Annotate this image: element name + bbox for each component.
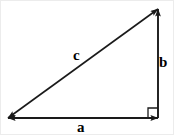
right-triangle-diagram: c b a: [0, 0, 174, 135]
vertical-leg-label: b: [159, 55, 167, 70]
right-angle-marker: [148, 108, 158, 118]
triangle-vector-canvas: [1, 1, 174, 135]
hypotenuse-line: [8, 9, 158, 118]
horizontal-leg-label: a: [77, 120, 85, 135]
hypotenuse-label: c: [73, 48, 80, 63]
